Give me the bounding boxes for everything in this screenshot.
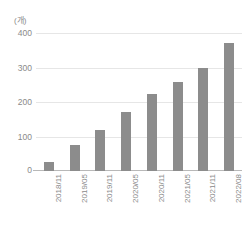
x-label-slot: 2022/08 — [216, 174, 242, 224]
bar-2021-05 — [173, 82, 183, 171]
bar-2022-08 — [224, 43, 234, 171]
bar-2021-11 — [198, 68, 208, 172]
y-tick-label-100: 100 — [18, 132, 32, 142]
bar-slot — [216, 33, 242, 171]
bar-slot — [88, 33, 114, 171]
x-label-slot: 2020/05 — [113, 174, 139, 224]
bar-chart-figure: (개) 400 300 200 100 0 — [0, 0, 252, 226]
bars-layer — [36, 33, 242, 171]
bar-slot — [165, 33, 191, 171]
x-label-slot: 2020/11 — [139, 174, 165, 224]
y-tick-label-300: 300 — [18, 63, 32, 73]
bar-2020-05 — [121, 112, 131, 171]
bar-2020-11 — [147, 94, 157, 171]
bar-slot — [139, 33, 165, 171]
bar-slot — [191, 33, 217, 171]
bar-2019-05 — [70, 145, 80, 171]
y-tick-label-0: 0 — [27, 165, 32, 175]
x-label-slot: 2019/11 — [88, 174, 114, 224]
plot-area: 400 300 200 100 0 — [36, 33, 242, 171]
x-tick-label-7: 2022/08 — [234, 174, 243, 203]
bar-2019-11 — [95, 130, 105, 171]
bar-2018-11 — [44, 162, 54, 171]
bar-slot — [113, 33, 139, 171]
x-label-slot: 2021/05 — [165, 174, 191, 224]
bar-slot — [36, 33, 62, 171]
bar-slot — [62, 33, 88, 171]
x-axis-labels: 2018/11 2019/05 2019/11 2020/05 2020/11 … — [36, 174, 242, 224]
y-axis-unit-label: (개) — [14, 14, 26, 25]
y-tick-label-400: 400 — [18, 28, 32, 38]
x-label-slot: 2019/05 — [62, 174, 88, 224]
y-tick-label-200: 200 — [18, 97, 32, 107]
x-label-slot: 2021/11 — [191, 174, 217, 224]
x-label-slot: 2018/11 — [36, 174, 62, 224]
